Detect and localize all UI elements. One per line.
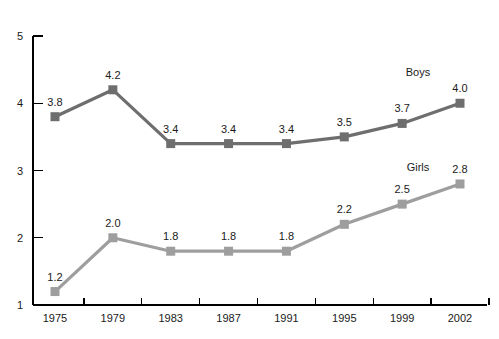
x-tick-label: 1987 xyxy=(216,312,240,324)
data-point-marker-boys xyxy=(456,99,465,108)
data-point-label: 3.7 xyxy=(394,102,409,114)
data-point-marker-boys xyxy=(398,119,407,128)
data-point-marker-boys xyxy=(108,85,117,94)
data-point-label: 4.0 xyxy=(452,82,467,94)
data-point-marker-girls xyxy=(166,247,175,256)
data-point-label: 3.4 xyxy=(163,123,178,135)
data-point-marker-boys xyxy=(166,139,175,148)
series-annotation-boys: Boys xyxy=(406,66,431,78)
data-point-marker-girls xyxy=(108,233,117,242)
data-point-marker-girls xyxy=(456,179,465,188)
data-point-label: 3.4 xyxy=(221,123,236,135)
y-tick-label: 2 xyxy=(17,232,23,244)
line-chart: 12345 19751979198319871991199519992002 3… xyxy=(0,0,499,339)
y-tick-label: 5 xyxy=(17,30,23,42)
series-line-boys xyxy=(55,90,460,144)
x-tick-label: 1995 xyxy=(332,312,356,324)
series-annotation-girls: Girls xyxy=(407,161,430,173)
data-point-label: 2.8 xyxy=(452,163,467,175)
data-point-label: 2.5 xyxy=(394,183,409,195)
data-point-marker-girls xyxy=(51,287,60,296)
y-tick-label: 3 xyxy=(17,165,23,177)
data-point-label: 3.8 xyxy=(47,96,62,108)
data-point-label: 3.4 xyxy=(279,123,294,135)
data-point-marker-girls xyxy=(340,220,349,229)
x-tick-label: 2002 xyxy=(448,312,472,324)
data-point-label: 1.8 xyxy=(163,230,178,242)
chart-container: 12345 19751979198319871991199519992002 3… xyxy=(0,0,499,339)
x-tick-label: 1983 xyxy=(158,312,182,324)
data-point-marker-girls xyxy=(224,247,233,256)
data-point-label: 3.5 xyxy=(337,116,352,128)
y-tick-label: 4 xyxy=(17,97,23,109)
data-point-marker-boys xyxy=(51,112,60,121)
x-tick-label: 1979 xyxy=(101,312,125,324)
x-axis: 19751979198319871991199519992002 xyxy=(33,298,489,324)
y-tick-label: 1 xyxy=(17,299,23,311)
data-point-marker-boys xyxy=(282,139,291,148)
data-point-marker-girls xyxy=(398,200,407,209)
x-tick-label: 1999 xyxy=(390,312,414,324)
data-point-marker-boys xyxy=(224,139,233,148)
data-point-marker-boys xyxy=(340,132,349,141)
y-axis: 12345 xyxy=(17,30,43,311)
data-point-label: 2.2 xyxy=(337,203,352,215)
data-point-label: 2.0 xyxy=(105,217,120,229)
data-point-label: 1.2 xyxy=(47,271,62,283)
data-point-marker-girls xyxy=(282,247,291,256)
data-point-label: 1.8 xyxy=(221,230,236,242)
data-point-label: 1.8 xyxy=(279,230,294,242)
x-tick-label: 1991 xyxy=(274,312,298,324)
x-tick-label: 1975 xyxy=(43,312,67,324)
data-point-label: 4.2 xyxy=(105,69,120,81)
